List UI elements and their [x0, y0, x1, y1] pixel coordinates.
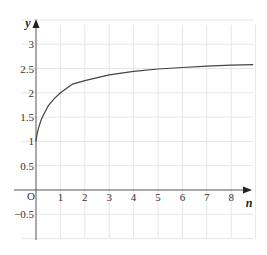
- y-tick-label: 1.5: [20, 111, 34, 123]
- y-tick-label: 2.5: [20, 63, 34, 75]
- grid-lines: [21, 20, 255, 239]
- chart: 12345678−0.50.511.522.53 n y O: [0, 0, 267, 255]
- y-tick-label: 2: [29, 87, 35, 99]
- x-tick-label: 6: [180, 191, 186, 203]
- x-tick-label: 7: [204, 191, 210, 203]
- origin-label: O: [27, 190, 35, 202]
- x-tick-label: 4: [131, 191, 137, 203]
- y-tick-label: 3: [29, 38, 35, 50]
- x-tick-label: 3: [106, 191, 112, 203]
- curve-line: [36, 65, 253, 142]
- x-tick-label: 5: [155, 191, 161, 203]
- y-axis-label: y: [23, 16, 31, 30]
- x-tick-label: 8: [228, 191, 234, 203]
- tick-labels: 12345678−0.50.511.522.53: [14, 38, 234, 220]
- x-tick-label: 1: [58, 191, 64, 203]
- y-tick-label: −0.5: [14, 208, 34, 220]
- axes: [14, 19, 252, 240]
- x-axis-label: n: [246, 196, 253, 210]
- y-tick-label: 0.5: [20, 160, 34, 172]
- x-axis-arrow-icon: [243, 187, 252, 194]
- x-tick-label: 2: [82, 191, 88, 203]
- y-tick-label: 1: [29, 135, 35, 147]
